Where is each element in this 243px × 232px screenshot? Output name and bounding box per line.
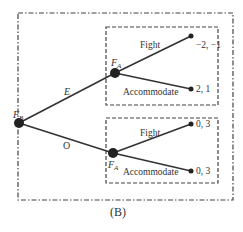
payoff-lower-fight: 0, 3 <box>196 119 211 129</box>
branch-label-lower-fight: Fight <box>140 128 160 138</box>
payoff-lower-accommodate: 0, 3 <box>196 166 211 176</box>
game-tree-diagram: FB FA FA E O Fight Accommodate Fight Acc… <box>0 0 243 232</box>
edge-e <box>19 73 115 123</box>
payoff-upper-fight: −2, −1 <box>196 40 221 50</box>
branch-label-upper-fight: Fight <box>140 40 160 50</box>
branch-label-lower-accommodate: Accommodate <box>123 167 178 177</box>
branch-label-o: O <box>63 140 70 151</box>
payoff-upper-accommodate: 2, 1 <box>196 84 211 94</box>
terminal-node <box>189 34 194 39</box>
terminal-node <box>189 169 194 174</box>
figure-caption: (B) <box>110 205 126 219</box>
branch-label-upper-accommodate: Accommodate <box>123 87 178 97</box>
terminal-node <box>189 122 194 127</box>
upper-node-label: FA <box>110 57 122 70</box>
branch-label-e: E <box>63 86 70 97</box>
lower-node-label: FA <box>107 159 119 172</box>
lower-node <box>108 148 118 158</box>
terminal-node <box>189 87 194 92</box>
